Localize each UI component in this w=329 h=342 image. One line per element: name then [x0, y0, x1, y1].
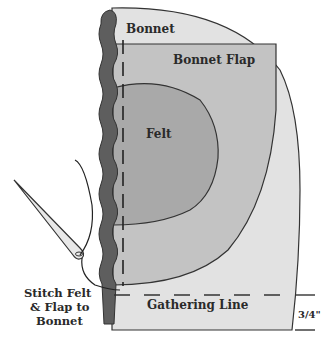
measurement-label: 3/4"	[298, 309, 321, 320]
instruction-line1: Stitch Felt	[24, 286, 92, 300]
felt-label: Felt	[146, 127, 172, 141]
needle-icon	[14, 180, 84, 259]
bonnet-flap-label: Bonnet Flap	[173, 53, 255, 67]
bonnet-diagram: Bonnet Bonnet Flap Felt Gathering Line 3…	[0, 0, 329, 342]
gathering-line-label: Gathering Line	[147, 298, 249, 312]
instruction-line3: Bonnet	[36, 314, 83, 328]
bonnet-label: Bonnet	[126, 22, 175, 36]
instruction-line2: & Flap to	[30, 300, 90, 314]
